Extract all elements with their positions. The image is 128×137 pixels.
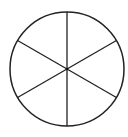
center-point (66, 68, 69, 71)
divided-circle-diagram (0, 0, 128, 137)
